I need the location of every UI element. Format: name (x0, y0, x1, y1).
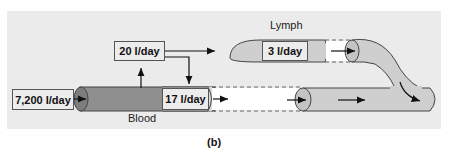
filtration-out-box: 20 l/day (114, 41, 165, 61)
blood-label: Blood (128, 112, 156, 124)
reabsorption-box: 17 l/day (162, 88, 209, 110)
lymph-label: Lymph (270, 19, 303, 31)
lymph-return-box: 3 l/day (262, 41, 308, 61)
arterial-inflow-box: 7,200 l/day (12, 89, 74, 110)
flow-diagram-graphics (0, 0, 454, 155)
figure-caption: (b) (207, 136, 221, 148)
lymph-vessel (230, 39, 422, 90)
